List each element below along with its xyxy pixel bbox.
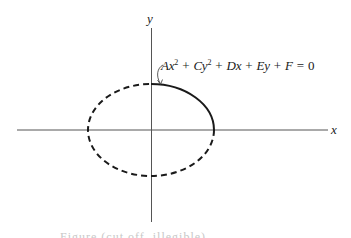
eq-term-F: F xyxy=(285,58,293,73)
eq-equals: = xyxy=(293,58,308,73)
figure-caption: Figure (cut off, illegible) xyxy=(60,230,290,238)
ellipse-solid-arc xyxy=(151,84,214,130)
eq-plus: + xyxy=(211,58,226,73)
ellipse-equation: Ax2 + Cy2 + Dx + Ey + F = 0 xyxy=(161,59,314,72)
eq-plus: + xyxy=(270,58,285,73)
eq-plus: + xyxy=(241,58,256,73)
eq-term-Ey: Ey xyxy=(256,58,269,73)
eq-term-Dx: Dx xyxy=(226,58,241,73)
y-axis-label: y xyxy=(147,12,153,25)
diagram-canvas xyxy=(0,0,351,238)
eq-plus: + xyxy=(178,58,193,73)
ellipse-figure: y x Ax2 + Cy2 + Dx + Ey + F = 0 Figure (… xyxy=(0,0,351,238)
eq-term-C: C xyxy=(193,58,201,73)
eq-zero: 0 xyxy=(308,58,314,73)
x-axis-label: x xyxy=(331,123,337,136)
eq-term-A: A xyxy=(161,58,169,73)
